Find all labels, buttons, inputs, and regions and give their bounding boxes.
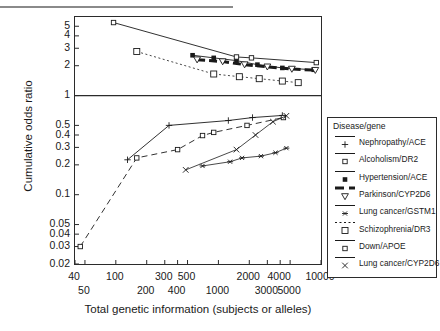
- legend-item: Hypertension/ACE: [332, 167, 434, 184]
- legend-item-label: Nephropathy/ACE: [359, 138, 426, 147]
- legend-key-plus-icon: [333, 132, 359, 149]
- legend-title: Disease/gene: [333, 121, 434, 131]
- plot-area: [74, 16, 322, 265]
- legend-item-label: Alcoholism/DR2: [359, 155, 418, 164]
- legend-key-open-square-icon: [333, 218, 359, 235]
- legend-item: Parkinson/CYP2D6: [332, 184, 434, 201]
- legend: Disease/gene Nephropathy/ACEAlcoholism/D…: [327, 117, 437, 278]
- legend-item-label: Hypertension/ACE: [359, 173, 427, 182]
- series-lung-cancer-gstm1: [200, 146, 290, 168]
- x-tick-label: 500: [178, 271, 196, 282]
- x-tick-label: 2000: [237, 271, 260, 282]
- legend-item: Schizophrenia/DR3: [332, 218, 434, 235]
- x-tick-label: 40: [68, 271, 80, 282]
- x-tick-label: 5000: [277, 285, 300, 296]
- plot-svg: [75, 17, 321, 264]
- legend-items: Nephropathy/ACEAlcoholism/DR2Hypertensio…: [332, 132, 434, 270]
- x-tick-label: 4000: [267, 271, 290, 282]
- legend-key-cross-icon: [333, 253, 359, 270]
- x-tick-label: 100: [106, 271, 124, 282]
- legend-item: Lung cancer/GSTM1: [332, 201, 434, 218]
- legend-item-label: Down/APOE: [359, 242, 406, 251]
- x-axis-title: Total genetic information (subjects or a…: [74, 303, 322, 315]
- legend-item: Lung cancer/CYP2D6: [332, 253, 434, 270]
- x-tick-label: 1000: [206, 285, 229, 296]
- x-tick-label: 400: [168, 285, 186, 296]
- legend-item-label: Parkinson/CYP2D6: [359, 190, 430, 199]
- legend-item: Down/APOE: [332, 236, 434, 253]
- legend-key-small-square-icon: [333, 236, 359, 253]
- x-tick-label: 300: [155, 271, 173, 282]
- legend-item-label: Schizophrenia/DR3: [359, 225, 430, 234]
- legend-item: Nephropathy/ACE: [332, 132, 434, 149]
- legend-item-label: Lung cancer/CYP2D6: [359, 259, 439, 268]
- legend-key-triangle-down-icon: [333, 184, 359, 201]
- y-axis-title: Cumulative odds ratio: [22, 46, 34, 226]
- legend-key-filled-square-icon: [333, 167, 359, 184]
- x-tick-label: 3000: [255, 285, 278, 296]
- series-lung-cancer-cyp2d6: [183, 113, 289, 173]
- legend-item: Alcoholism/DR2: [332, 149, 434, 166]
- legend-key-asterisk-icon: [333, 201, 359, 218]
- x-tick-label: 200: [137, 285, 155, 296]
- legend-item-label: Lung cancer/GSTM1: [359, 207, 436, 216]
- x-tick-label: 50: [78, 285, 90, 296]
- legend-key-small-square-icon: [333, 149, 359, 166]
